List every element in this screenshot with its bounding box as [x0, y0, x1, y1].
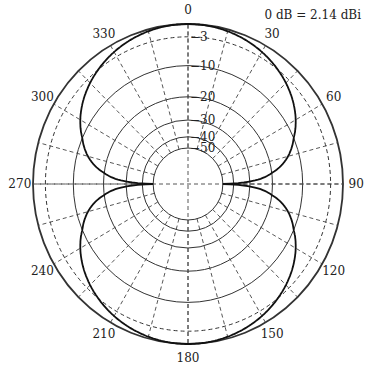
spoke-225	[78, 209, 163, 297]
angle-label-300: 300	[31, 90, 54, 104]
angle-label-180: 180	[177, 351, 200, 365]
polar-chart: 0 dB = 2.14 dBi 030609012015018021024027…	[0, 0, 369, 370]
spoke-210	[111, 215, 171, 322]
angle-label-240: 240	[31, 264, 54, 278]
angle-label-210: 210	[92, 327, 115, 341]
radial-label-minus-30: −30	[190, 113, 215, 127]
angle-label-90: 90	[349, 177, 364, 191]
spoke-240	[54, 202, 158, 264]
spoke-150	[205, 215, 265, 322]
spoke-330	[111, 45, 171, 152]
angle-label-150: 150	[261, 327, 284, 341]
angle-label-120: 120	[322, 264, 345, 278]
radial-label-minus-3: −3	[190, 30, 208, 44]
radial-label-minus-10: −10	[190, 59, 215, 73]
polar-plot-area: 0306090120150180210240270300330−3−10−20−…	[0, 0, 369, 370]
spoke-135	[213, 209, 298, 297]
radial-label-minus-20: −20	[190, 90, 215, 104]
spoke-45	[213, 71, 298, 159]
angle-label-330: 330	[92, 27, 115, 41]
spoke-300	[54, 104, 158, 166]
angle-label-270: 270	[8, 177, 31, 191]
angle-label-0: 0	[184, 3, 192, 17]
radial-label-minus-50: −50	[190, 141, 215, 155]
angle-label-60: 60	[326, 90, 341, 104]
spoke-315	[78, 71, 163, 159]
spoke-120	[218, 202, 322, 264]
angle-label-30: 30	[264, 27, 279, 41]
spoke-60	[218, 104, 322, 166]
